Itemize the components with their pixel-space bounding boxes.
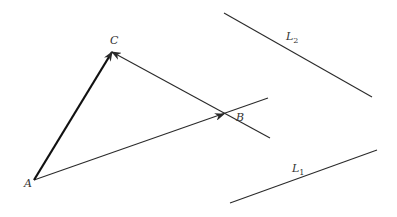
vector-diagram: A B C L1 L2 <box>0 0 397 217</box>
line-through-b <box>34 98 268 180</box>
line-l2-label: L2 <box>285 30 298 45</box>
line-l2 <box>224 13 372 97</box>
vector-ac <box>34 52 112 180</box>
point-c-label: C <box>110 34 119 47</box>
point-a-label: A <box>23 177 32 190</box>
line-l1-label: L1 <box>291 162 304 177</box>
point-b-label: B <box>235 111 244 124</box>
